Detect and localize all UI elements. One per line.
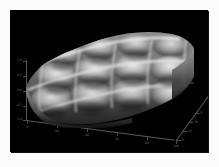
screenshot-root: 1.0 0.5 0.0 -0.5 -1.0 0 20 40 60 80 100 xyxy=(0,0,219,167)
y-ticklabel-0: 0 xyxy=(182,139,184,143)
x-ticklabel-5: 100 xyxy=(173,145,179,149)
z-ticklabel-2: 0.0 xyxy=(17,89,22,93)
surface-plot-figure[interactable]: 1.0 0.5 0.0 -0.5 -1.0 0 20 40 60 80 100 xyxy=(10,10,208,152)
z-ticklabel-0: -1.0 xyxy=(16,118,22,122)
y-tick-0 xyxy=(177,140,181,141)
x-ticklabel-4: 80 xyxy=(145,142,149,146)
y-ticklabel-1: 25 xyxy=(188,130,192,134)
z-ticklabel-1: -0.5 xyxy=(16,104,22,108)
z-ticklabel-4: 1.0 xyxy=(17,59,22,63)
x-tick-2 xyxy=(87,128,88,132)
surface-sheet xyxy=(24,24,196,128)
z-ticklabel-3: 0.5 xyxy=(17,74,22,78)
y-tick-1 xyxy=(183,131,187,132)
surface-svg xyxy=(24,24,196,128)
x-ticklabel-3: 60 xyxy=(115,138,119,142)
x-ticklabel-2: 40 xyxy=(85,134,89,138)
y-ticklabel-3: 75 xyxy=(199,112,203,116)
x-tick-4 xyxy=(147,136,148,140)
x-ticklabel-1: 20 xyxy=(55,130,59,134)
x-tick-3 xyxy=(117,132,118,136)
surface-mesh xyxy=(24,24,196,128)
plot-area: 1.0 0.5 0.0 -0.5 -1.0 0 20 40 60 80 100 xyxy=(10,10,208,152)
